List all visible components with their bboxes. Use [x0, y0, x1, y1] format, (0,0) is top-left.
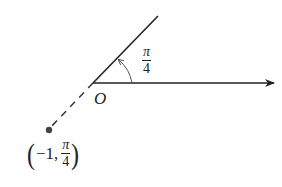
right-paren: )	[71, 139, 79, 169]
origin-label: O	[94, 89, 106, 109]
angle-arc	[119, 60, 132, 83]
point-label: ( −1, π 4 )	[26, 138, 80, 169]
point-theta: π 4	[61, 138, 70, 169]
point-dot	[46, 127, 52, 133]
point-r: −1,	[36, 144, 58, 164]
point-theta-numerator: π	[61, 138, 70, 154]
left-paren: (	[27, 139, 35, 169]
angle-label: π 4	[142, 45, 151, 76]
point-theta-denominator: 4	[62, 154, 69, 169]
angle-denominator: 4	[143, 61, 150, 76]
dashed-extension	[49, 83, 93, 129]
angle-numerator: π	[142, 45, 151, 61]
